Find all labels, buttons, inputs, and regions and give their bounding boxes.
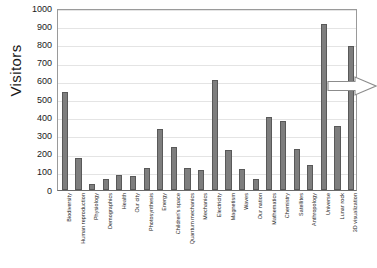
x-axis-tick-label: Electricity [216, 193, 222, 265]
bars-layer [58, 10, 356, 190]
x-axis-tick-label: Satellites [298, 193, 304, 265]
bar [348, 46, 354, 190]
x-axis-tick-label: Our city [134, 193, 140, 265]
plot-area [57, 9, 357, 191]
x-axis-tick-label: Human reproduction [80, 193, 86, 265]
bar [75, 158, 81, 190]
y-axis-tick-labels: 10009008007006005004003002001000 [16, 9, 52, 191]
y-axis-tick-label: 600 [16, 77, 52, 86]
right-arrow-icon [327, 76, 377, 96]
x-axis-tick-label: Waves [243, 193, 249, 265]
bar [116, 175, 122, 190]
bar [103, 179, 109, 190]
x-axis-tick-label: Photosynthesis [148, 193, 154, 265]
bar [89, 184, 95, 190]
x-axis-tick-label: Anthropology [311, 193, 317, 265]
bar [212, 80, 218, 190]
x-axis-tick-label: Mathematics [271, 193, 277, 265]
x-axis-tick-label: Biodiversity [66, 193, 72, 265]
y-axis-tick-label: 100 [16, 168, 52, 177]
x-axis-tick-labels: BiodiversityHuman reproductionPhysiology… [57, 193, 357, 268]
bar [198, 170, 204, 190]
x-axis-tick-label: Universe [325, 193, 331, 265]
bar [294, 149, 300, 190]
y-axis-tick-label: 1000 [16, 5, 52, 14]
x-axis-tick-label: Our nation [257, 193, 263, 265]
bar [184, 168, 190, 190]
x-axis-tick-label: Health [121, 193, 127, 265]
x-axis-tick-label: Physiology [93, 193, 99, 265]
bar [334, 126, 340, 190]
x-axis-tick-label: Lunar rock [339, 193, 345, 265]
x-axis-tick-label: Children's space [175, 193, 181, 265]
bar [253, 179, 259, 190]
bar [280, 121, 286, 190]
bar [62, 92, 68, 190]
bar [321, 24, 327, 190]
bar [130, 176, 136, 190]
y-axis-tick-label: 0 [16, 187, 52, 196]
y-axis-tick-label: 400 [16, 114, 52, 123]
x-axis-tick-label: Quantum mechanics [189, 193, 195, 265]
bar [171, 147, 177, 190]
bar [144, 168, 150, 190]
bar [225, 150, 231, 190]
y-axis-tick-label: 300 [16, 132, 52, 141]
y-axis-tick-label: 500 [16, 96, 52, 105]
x-axis-tick-label: Demographics [107, 193, 113, 265]
x-axis-tick-label: Mechanics [202, 193, 208, 265]
bar [307, 165, 313, 190]
x-axis-tick-label: Chemistry [284, 193, 290, 265]
y-axis-tick-label: 900 [16, 23, 52, 32]
y-axis-tick-label: 700 [16, 59, 52, 68]
x-axis-tick-label: Magnetism [230, 193, 236, 265]
y-axis-tick-label: 800 [16, 41, 52, 50]
bar [266, 117, 272, 190]
bar [157, 129, 163, 190]
x-axis-tick-label: Energy [161, 193, 167, 265]
bar [239, 169, 245, 190]
x-axis-tick-label: 3D visualization [352, 193, 358, 265]
y-axis-tick-label: 200 [16, 150, 52, 159]
